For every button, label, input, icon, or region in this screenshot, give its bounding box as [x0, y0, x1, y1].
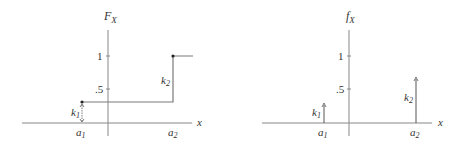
jump-point-2	[171, 54, 174, 57]
k2-label: k2	[161, 74, 170, 88]
a1-label: a1	[318, 126, 328, 140]
step-function	[82, 56, 193, 102]
jump-point-1	[80, 100, 83, 103]
tick-label-half: .5	[336, 83, 345, 95]
cdf-diagram: 1 .5 FX x k1 k2 a1 a2	[22, 9, 202, 140]
a2-label: a2	[168, 126, 178, 140]
pmf-diagram: 1 .5 fX x k1 k2 a1 a2	[262, 9, 443, 140]
a1-label: a1	[76, 126, 86, 140]
k2-label: k2	[404, 91, 413, 105]
a2-label: a2	[410, 126, 420, 140]
diagram-canvas: 1 .5 FX x k1 k2 a1 a2 1 .5 fX x k1 k2 a1…	[0, 0, 461, 148]
x-axis-label: x	[196, 116, 202, 128]
tick-label-1: 1	[338, 50, 344, 62]
k1-label: k1	[312, 106, 321, 120]
tick-label-1: 1	[97, 50, 103, 62]
y-axis-label: fX	[346, 9, 355, 25]
k1-label: k1	[71, 106, 80, 120]
x-axis-label: x	[437, 116, 443, 128]
y-axis-label: FX	[103, 9, 117, 25]
tick-label-half: .5	[95, 83, 104, 95]
